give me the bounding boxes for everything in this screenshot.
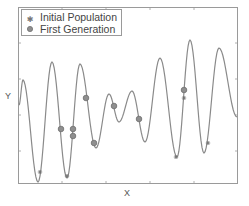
first-generation-marker: [111, 103, 117, 109]
chart: ✱ Initial Population First Generation X …: [0, 0, 249, 206]
legend-item-first-generation: First Generation: [40, 23, 115, 35]
legend: ✱ Initial Population First Generation: [22, 10, 122, 36]
first-generation-marker: [70, 126, 76, 132]
x-axis-label: X: [124, 188, 130, 198]
y-axis-label: Y: [5, 91, 11, 101]
first-generation-marker: [58, 126, 64, 132]
first-generation-marker: [91, 140, 97, 146]
first-generation-marker: [181, 87, 187, 93]
legend-item-initial-population: Initial Population: [40, 11, 117, 23]
svg-text:✱: ✱: [27, 15, 34, 24]
first-generation-marker: [83, 95, 89, 101]
first-generation-marker: [70, 133, 76, 139]
first-generation-marker: [136, 116, 142, 122]
legend-circle-icon: [27, 26, 32, 31]
legend-star-icon: ✱: [27, 15, 34, 24]
